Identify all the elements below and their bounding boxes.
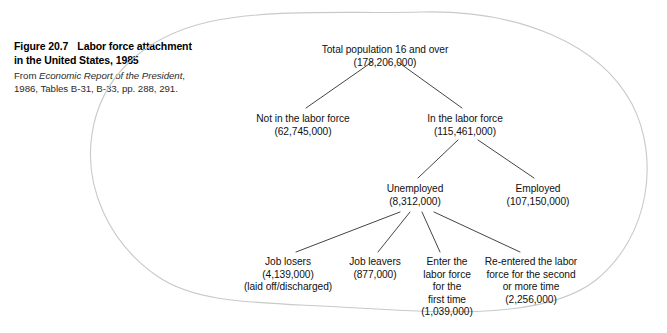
node-new-entrants-label-line3: for the: [421, 281, 473, 294]
link-inlabor-to-unemployed: [418, 140, 458, 178]
link-unemployed-to-jobleavers: [378, 212, 410, 252]
figure-number: Figure 20.7: [14, 40, 68, 52]
node-total-population-value: (178,206,000): [322, 57, 449, 70]
node-unemployed: Unemployed (8,312,000): [387, 183, 444, 208]
caption-title-line1: Labor force attachment: [77, 40, 192, 52]
node-job-leavers-label: Job leavers: [349, 256, 401, 269]
node-employed-label: Employed: [507, 183, 570, 196]
node-reentrants-label-line3: or more time: [485, 281, 577, 294]
node-not-in-labor-force-label: Not in the labor force: [256, 113, 349, 126]
figure-page: Figure 20.7Labor force attachment in the…: [0, 0, 667, 333]
node-in-labor-force-label: In the labor force: [427, 113, 503, 126]
node-not-in-labor-force: Not in the labor force (62,745,000): [256, 113, 349, 138]
node-not-in-labor-force-value: (62,745,000): [256, 126, 349, 139]
node-unemployed-label: Unemployed: [387, 183, 444, 196]
source-prefix: From: [14, 70, 39, 81]
node-job-losers-value: (4,139,000): [244, 269, 332, 282]
source-publication: Economic Report of the President: [39, 70, 182, 81]
node-job-losers-label: Job losers: [244, 256, 332, 269]
link-unemployed-to-joblosers: [296, 212, 400, 252]
caption-source: From Economic Report of the President, 1…: [14, 69, 219, 95]
node-job-losers: Job losers (4,139,000) (laid off/dischar…: [244, 256, 332, 294]
node-new-entrants: Enter the labor force for the first time…: [421, 256, 473, 319]
node-reentrants-label-line1: Re-entered the labor: [485, 256, 577, 269]
node-total-population-label: Total population 16 and over: [322, 44, 449, 57]
node-unemployed-value: (8,312,000): [387, 196, 444, 209]
node-total-population: Total population 16 and over (178,206,00…: [322, 44, 449, 69]
link-inlabor-to-employed: [478, 140, 534, 178]
source-details: 1986, Tables B-31, B-33, pp. 288, 291.: [14, 83, 178, 94]
source-suffix: ,: [182, 70, 185, 81]
node-reentrants: Re-entered the labor force for the secon…: [485, 256, 577, 306]
figure-caption: Figure 20.7Labor force attachment in the…: [14, 40, 219, 95]
node-in-labor-force: In the labor force (115,461,000): [427, 113, 503, 138]
node-new-entrants-value: (1,039,000): [421, 306, 473, 319]
node-new-entrants-label-line1: Enter the: [421, 256, 473, 269]
node-job-losers-note: (laid off/discharged): [244, 281, 332, 294]
node-job-leavers-value: (877,000): [349, 269, 401, 282]
link-unemployed-to-reentrants: [434, 212, 520, 252]
node-employed-value: (107,150,000): [507, 196, 570, 209]
node-new-entrants-label-line4: first time: [421, 294, 473, 307]
caption-title-line2: in the United States, 1985: [14, 54, 139, 66]
caption-title: Figure 20.7Labor force attachment in the…: [14, 40, 219, 67]
link-unemployed-to-newentrants: [422, 212, 440, 252]
node-new-entrants-label-line2: labor force: [421, 269, 473, 282]
node-reentrants-value: (2,256,000): [485, 294, 577, 307]
node-job-leavers: Job leavers (877,000): [349, 256, 401, 281]
node-in-labor-force-value: (115,461,000): [427, 126, 503, 139]
node-reentrants-label-line2: force for the second: [485, 269, 577, 282]
node-employed: Employed (107,150,000): [507, 183, 570, 208]
